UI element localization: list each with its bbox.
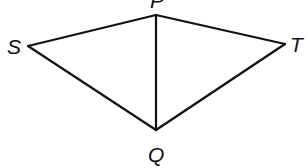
segment-tq [156, 44, 285, 130]
segment-sp [28, 15, 156, 46]
vertex-label-q: Q [148, 143, 164, 166]
vertex-label-s: S [7, 35, 21, 58]
geometry-diagram: P S T Q [0, 0, 308, 168]
segment-pt [156, 15, 285, 44]
vertex-label-t: T [290, 33, 305, 56]
segment-qs [28, 46, 156, 130]
vertex-label-p: P [150, 0, 164, 12]
